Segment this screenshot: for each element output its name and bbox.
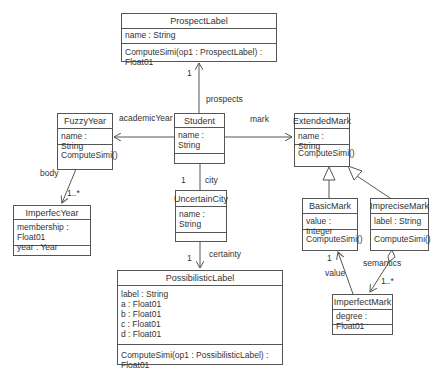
class-name: FuzzyYear: [58, 114, 112, 129]
attribute: membership : Float01: [17, 222, 87, 242]
class-prospect-label[interactable]: ProspectLabel name : String ComputeSimi(…: [121, 13, 277, 62]
mult-certainty: 1: [187, 253, 192, 263]
mult-body: 1..*: [67, 188, 80, 198]
mult-semantics: 1..*: [381, 276, 394, 286]
attribute: label : String: [121, 289, 279, 299]
operation: ComputeSimi(op1 : PossibilisticLabel) : …: [121, 350, 279, 370]
generalization-imprecise-mark: [357, 176, 390, 198]
mult-value: 1: [327, 253, 332, 263]
mult-prospects: 1: [187, 68, 192, 78]
operation: ComputeSimi(op1 : ProspectLabel) : Float…: [125, 47, 273, 67]
class-name: PossibilisticLabel: [118, 271, 282, 286]
role-value: value: [325, 268, 345, 278]
class-name: ImpreciseMark: [371, 199, 428, 214]
class-uncertain-city[interactable]: UncertainCity name : String: [175, 190, 227, 242]
class-name: ImperfectMark: [333, 295, 392, 310]
generalization-arrowhead-basic: [323, 167, 335, 180]
attribute: d : Float01: [121, 329, 279, 339]
attribute: name : String: [125, 30, 273, 40]
class-name: BasicMark: [303, 199, 357, 214]
operation: ComputeSimi(): [298, 148, 346, 158]
class-extended-mark[interactable]: ExtendedMark name : String ComputeSimi(): [294, 113, 350, 167]
class-name: ExtendedMark: [295, 114, 349, 129]
role-body: body: [40, 168, 58, 178]
role-prospects: prospects: [206, 94, 243, 104]
class-imperfect-mark[interactable]: ImperfectMark degree : Float01: [332, 294, 393, 335]
class-fuzzy-year[interactable]: FuzzyYear name : String ComputeSimi(): [57, 113, 113, 170]
role-academic-year: academicYear: [119, 113, 173, 123]
class-imprecise-mark[interactable]: ImpreciseMark label : String ComputeSimi…: [370, 198, 429, 251]
class-basic-mark[interactable]: BasicMark value : Integer ComputeSimi(): [302, 198, 358, 251]
mult-city: 1: [181, 175, 186, 185]
attribute: name : String: [179, 209, 223, 229]
attribute: c : Float01: [121, 319, 279, 329]
attribute: name : String: [178, 130, 221, 150]
class-name: ImperfecYear: [14, 206, 90, 220]
operation: ComputeSimi(): [306, 234, 354, 244]
attribute: label : String: [374, 216, 425, 226]
operation: ComputeSimi(): [61, 150, 109, 160]
class-student[interactable]: Student name : String: [174, 113, 225, 164]
role-certainty: certainty: [209, 249, 241, 259]
attribute: b : Float01: [121, 309, 279, 319]
class-name: Student: [175, 114, 224, 128]
role-mark: mark: [250, 114, 269, 124]
operation: ComputeSimi(): [374, 234, 425, 244]
attribute: a : Float01: [121, 299, 279, 309]
class-name: ProspectLabel: [122, 14, 276, 29]
class-name: UncertainCity: [176, 191, 226, 207]
role-semantics: semantics: [363, 258, 401, 268]
class-possibilistic-label[interactable]: PossibilisticLabel label : String a : Fl…: [117, 270, 283, 365]
class-imperfec-year[interactable]: ImperfecYear membership : Float01 year :…: [13, 205, 91, 256]
role-city: city: [205, 175, 218, 185]
